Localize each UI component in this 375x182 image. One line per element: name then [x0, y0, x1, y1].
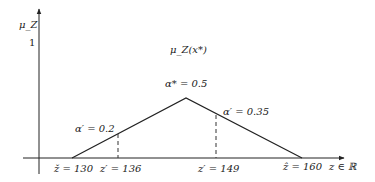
- y-tick-one: 1: [29, 38, 35, 48]
- peak-label: α* = 0.5: [165, 79, 207, 89]
- function-label: μ_Z(x*): [170, 45, 207, 55]
- alpha-right-label: α′ = 0.35: [223, 107, 269, 117]
- left-cut-label: z′ = 136: [100, 164, 141, 174]
- right-base-label: ẑ = 160: [283, 162, 322, 172]
- right-cut-label: z′ = 149: [198, 164, 239, 174]
- membership-diagram: [0, 0, 375, 182]
- x-axis-label: z ∈ ℝ: [329, 162, 356, 172]
- alpha-left-label: α′ = 0.2: [75, 124, 115, 134]
- left-base-label: ž = 130: [54, 164, 93, 174]
- y-axis-label: μ_Z: [19, 20, 37, 30]
